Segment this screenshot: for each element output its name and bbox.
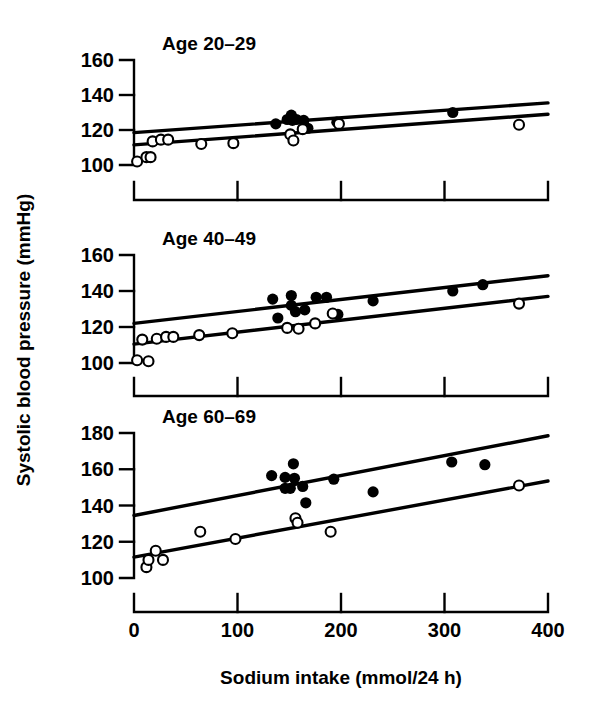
data-point-open-2: [146, 152, 156, 162]
data-point-open-1: [137, 335, 147, 345]
data-point-open-6: [196, 139, 206, 149]
y-tick-label-180: 180: [81, 422, 114, 444]
data-point-open-7: [293, 518, 303, 528]
data-point-open-9: [514, 481, 524, 491]
data-point-open-7: [228, 138, 238, 148]
data-point-filled-2: [286, 290, 297, 301]
y-tick-label-120: 120: [81, 531, 114, 553]
panel-1: 100120140160Age 20–29: [81, 33, 548, 200]
data-point-open-2: [151, 546, 161, 556]
x-tick-label-0: 0: [128, 619, 139, 641]
regression-line-open: [134, 481, 548, 557]
data-point-filled-8: [328, 474, 339, 485]
data-point-open-2: [143, 356, 153, 366]
data-point-open-4: [195, 527, 205, 537]
y-tick-label-160: 160: [81, 49, 114, 71]
panel-2: 100120140160Age 40–49: [81, 228, 548, 396]
panel-title-2: Age 40–49: [162, 228, 256, 249]
data-point-open-12: [514, 299, 524, 309]
y-tick-label-120: 120: [81, 316, 114, 338]
x-tick-label-400: 400: [531, 619, 564, 641]
chart-canvas: 100120140160Age 20–29100120140160Age 40–…: [0, 0, 590, 706]
y-axis-title: Systolic blood pressure (mmHg): [13, 194, 34, 486]
x-axis-title: Sodium intake (mmol/24 h): [220, 667, 462, 688]
data-point-filled-9: [367, 295, 378, 306]
y-tick-label-120: 120: [81, 119, 114, 141]
y-tick-label-140: 140: [81, 495, 114, 517]
data-point-filled-3: [285, 483, 296, 494]
data-point-open-9: [288, 136, 298, 146]
data-point-open-3: [158, 555, 168, 565]
y-tick-label-160: 160: [81, 244, 114, 266]
data-point-filled-9: [367, 486, 378, 497]
data-point-filled-7: [321, 292, 332, 303]
data-point-filled-4: [288, 458, 299, 469]
data-point-open-8: [326, 527, 336, 537]
data-point-filled-0: [266, 470, 277, 481]
y-tick-label-100: 100: [81, 154, 114, 176]
y-tick-label-100: 100: [81, 567, 114, 589]
x-tick-label-100: 100: [221, 619, 254, 641]
data-point-filled-5: [299, 304, 310, 315]
data-point-open-8: [282, 323, 292, 333]
x-tick-label-300: 300: [428, 619, 461, 641]
data-point-filled-7: [300, 497, 311, 508]
data-point-open-7: [227, 328, 237, 338]
data-point-filled-11: [479, 459, 490, 470]
x-tick-label-200: 200: [324, 619, 357, 641]
data-point-filled-11: [477, 279, 488, 290]
data-point-filled-0: [267, 294, 278, 305]
data-point-open-11: [328, 309, 338, 319]
data-point-open-10: [298, 124, 308, 134]
y-tick-label-140: 140: [81, 84, 114, 106]
data-point-open-5: [163, 135, 173, 145]
regression-line-filled: [134, 436, 548, 516]
systolic-bp-vs-sodium-figure: 100120140160Age 20–29100120140160Age 40–…: [0, 0, 590, 706]
data-point-filled-10: [447, 285, 458, 296]
data-point-filled-5: [289, 473, 300, 484]
data-point-filled-8: [447, 107, 458, 118]
data-point-open-6: [194, 330, 204, 340]
data-point-filled-0: [270, 118, 281, 129]
y-axis-spine: [120, 255, 134, 363]
y-axis-spine: [120, 60, 134, 165]
data-point-open-5: [168, 332, 178, 342]
data-point-open-11: [334, 119, 344, 129]
data-point-open-5: [230, 534, 240, 544]
panel-3: 100120140160180Age 60–69: [81, 406, 548, 612]
data-point-open-12: [514, 120, 524, 130]
data-point-filled-1: [272, 312, 283, 323]
data-point-filled-6: [311, 292, 322, 303]
y-tick-label-140: 140: [81, 280, 114, 302]
data-point-open-0: [132, 355, 142, 365]
panel-title-3: Age 60–69: [162, 406, 256, 427]
data-point-open-10: [310, 318, 320, 328]
y-tick-label-160: 160: [81, 458, 114, 480]
panel-title-1: Age 20–29: [162, 33, 256, 54]
data-point-open-1: [143, 555, 153, 565]
data-point-filled-10: [446, 456, 457, 467]
data-point-open-3: [152, 334, 162, 344]
y-tick-label-100: 100: [81, 352, 114, 374]
data-point-filled-6: [297, 481, 308, 492]
data-point-open-9: [294, 324, 304, 334]
data-point-filled-4: [290, 306, 301, 317]
